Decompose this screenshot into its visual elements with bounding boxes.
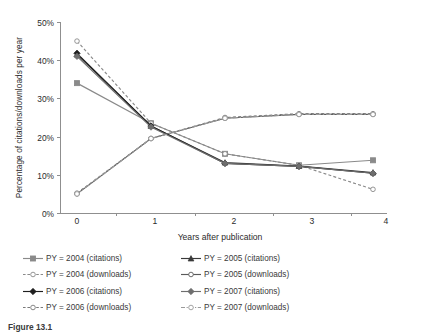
- series-1-point-4: [371, 187, 376, 192]
- legend-symbol-open-circle-dashed-icon: [22, 269, 44, 280]
- legend-symbol-filled-diamond-black-icon: [22, 286, 44, 297]
- legend-label-5: PY = 2005 (downloads): [204, 268, 289, 281]
- series-6-point-4: [370, 170, 376, 176]
- figure-caption-label: Figure 13.1: [8, 322, 52, 332]
- legend-item-6[interactable]: PY = 2007 (citations): [180, 285, 280, 298]
- legend-symbol-filled-square-gray-icon: [22, 253, 44, 264]
- series-0-point-4: [371, 158, 376, 163]
- series-7-point-4: [371, 112, 376, 117]
- legend-label-4: PY = 2005 (citations): [204, 252, 280, 265]
- legend-label-3: PY = 2006 (downloads): [46, 301, 131, 314]
- legend-label-6: PY = 2007 (citations): [204, 285, 280, 298]
- series-1-point-0: [75, 39, 80, 44]
- series-7-point-0: [75, 192, 80, 197]
- legend-symbol-filled-diamond-gray-icon: [180, 286, 202, 297]
- figure-caption: Figure 13.1: [8, 322, 52, 332]
- legend-item-2[interactable]: PY = 2006 (citations): [22, 285, 122, 298]
- series-7-point-1: [149, 136, 154, 141]
- legend-symbol-filled-triangle-black-icon: [180, 253, 202, 264]
- series-1-point-2: [223, 151, 228, 156]
- figure-container: Percentage of citations/downloads per ye…: [0, 0, 429, 335]
- legend-symbol-open-circle-dashed-2-icon: [22, 302, 44, 313]
- legend-item-5[interactable]: PY = 2005 (downloads): [180, 268, 289, 281]
- series-0-point-0: [75, 81, 80, 86]
- series-7-point-2: [223, 116, 228, 121]
- legend-item-3[interactable]: PY = 2006 (downloads): [22, 301, 131, 314]
- chart-legend: PY = 2004 (citations) PY = 2004 (downloa…: [22, 252, 412, 314]
- legend-item-1[interactable]: PY = 2004 (downloads): [22, 268, 131, 281]
- legend-item-7[interactable]: PY = 2007 (downloads): [180, 301, 289, 314]
- legend-symbol-open-circle-dashdot-icon: [180, 302, 202, 313]
- legend-item-0[interactable]: PY = 2004 (citations): [22, 252, 122, 265]
- legend-label-0: PY = 2004 (citations): [46, 252, 122, 265]
- legend-label-2: PY = 2006 (citations): [46, 285, 122, 298]
- legend-label-1: PY = 2004 (downloads): [46, 268, 131, 281]
- legend-label-7: PY = 2007 (downloads): [204, 301, 289, 314]
- legend-item-4[interactable]: PY = 2005 (citations): [180, 252, 280, 265]
- series-7-point-3: [297, 112, 302, 117]
- legend-symbol-open-circle-dark-icon: [180, 269, 202, 280]
